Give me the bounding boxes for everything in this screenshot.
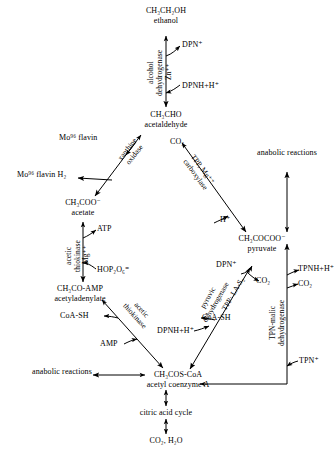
- pathway-diagram: CH₃CH₂OH ethanol CH₃CHO acetaldehyde CH₃…: [0, 0, 334, 449]
- acetyladenylate-name: acetyladenylate: [54, 294, 105, 304]
- cofactor-co2-acetaldehyde: CO₂: [170, 137, 184, 147]
- cofactor-coash-upper: CoA-SH: [60, 311, 89, 321]
- node-acetyl-coa: CH₃COS-CoA acetyl coenzyme A: [147, 370, 210, 390]
- cofactor-co2-malic: CO₂: [298, 279, 312, 289]
- cofactor-dpn-plus-pyruvate: DPN⁺: [216, 260, 237, 270]
- cofactor-hop2o6: HOP₂O₆⁼: [97, 265, 129, 275]
- cofactor-zn: Zn⁺⁺: [164, 60, 173, 84]
- node-pyruvate: CH₃COCOO⁻ pyruvate: [238, 234, 285, 254]
- cofactor-tpn-plus: TPN⁺: [299, 356, 319, 366]
- acetyl-coa-formula: CH₃COS-CoA: [154, 370, 202, 379]
- acetyl-coa-name: acetyl coenzyme A: [147, 380, 210, 390]
- enzyme-tpn-malic-dehydrogenase: TPN-malic dehydrogenase: [268, 290, 287, 356]
- ethanol-name: ethanol: [146, 16, 186, 26]
- cofactor-coash-lower: CoA-SH: [202, 313, 231, 323]
- cofactor-mo-flavin-h2: Mo⁹⁶ flavin H₂: [17, 170, 66, 180]
- cofactor-h-plus: H⁺: [220, 215, 230, 225]
- cofactor-dpnh-h-top: DPNH+H⁺: [182, 81, 219, 91]
- ethanol-formula: CH₃CH₂OH: [146, 6, 186, 15]
- pyruvate-formula: CH₃COCOO⁻: [238, 234, 285, 243]
- acetyladenylate-formula: CH₃CO-AMP: [57, 284, 103, 293]
- node-acetaldehyde: CH₃CHO acetaldehyde: [145, 110, 188, 130]
- enzyme-acetic-thiokinase-2: acetic thiokinase: [121, 295, 156, 330]
- cofactor-dpnh-h-lower: DPNH+H⁺: [157, 326, 194, 336]
- node-acetate: CH₃COO⁻ acetate: [65, 198, 101, 218]
- cofactor-co2-pyruvate: CO₂: [256, 276, 270, 286]
- acetaldehyde-formula: CH₃CHO: [150, 110, 181, 119]
- node-anabolic-reactions-right: anabolic reactions: [257, 148, 317, 158]
- node-anabolic-reactions-left: anabolic reactions: [32, 367, 92, 377]
- node-acetyladenylate: CH₃CO-AMP acetyladenylate: [54, 284, 105, 304]
- node-citric-acid-cycle: citric acid cycle: [140, 408, 192, 418]
- cofactor-dpn-plus-top: DPN⁺: [182, 40, 203, 50]
- enzyme-alcohol-dehydrogenase: alcohol dehydrogenase: [146, 42, 165, 104]
- node-end-products: CO₂, H₂O: [149, 436, 182, 446]
- node-ethanol: CH₃CH₂OH ethanol: [146, 6, 186, 26]
- cofactor-amp: AMP: [100, 339, 118, 349]
- acetaldehyde-name: acetaldehyde: [145, 120, 188, 130]
- cofactor-mg: Mg⁺⁺: [81, 241, 90, 269]
- cofactor-atp: ATP: [97, 224, 112, 234]
- enzyme-carboxylase: TPP, Mg⁺⁺ carboxylase: [181, 152, 217, 192]
- pyruvate-name: pyruvate: [238, 244, 285, 254]
- acetate-name: acetate: [65, 208, 101, 218]
- cofactor-tpnh-h: TPNH+H⁺: [298, 264, 334, 274]
- enzyme-xanthine-oxidase: xanthine oxidase: [116, 136, 147, 168]
- acetate-formula: CH₃COO⁻: [65, 198, 101, 207]
- enzyme-acetic-thiokinase-1: acetic thiokinase: [64, 230, 83, 282]
- cofactor-mo-flavin: Mo⁹⁶ flavin: [59, 133, 97, 143]
